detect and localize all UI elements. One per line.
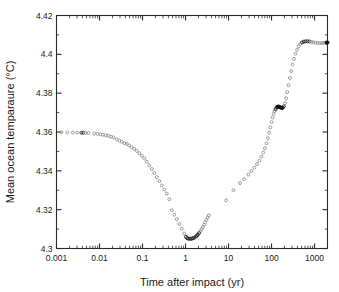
y-tick-label: 4.3 [41,244,53,254]
x-tick-label: 100 [264,253,278,263]
x-axis-title: Time after impact (yr) [140,276,244,288]
y-tick-label: 4.4 [41,49,53,59]
y-tick-label: 4.42 [36,11,53,21]
y-tick-label: 4.32 [36,205,53,215]
x-tick-label: 10 [224,253,234,263]
y-tick-label: 4.38 [36,88,53,98]
x-tick-label: 0.1 [137,253,149,263]
y-axis-title: Mean ocean temparaure (°C) [4,61,16,204]
x-tick-label: 1000 [305,253,324,263]
data-point [326,41,329,44]
figure-container: 0.0010.010.11101001000 4.34.324.344.364.… [0,0,339,292]
x-tick-label: 0.001 [46,253,68,263]
y-tick-label: 4.34 [36,166,53,176]
x-tick-label: 0.01 [91,253,108,263]
x-tick-label: 1 [183,253,188,263]
scatter-plot: 0.0010.010.11101001000 4.34.324.344.364.… [0,0,339,292]
y-tick-label: 4.36 [36,127,53,137]
